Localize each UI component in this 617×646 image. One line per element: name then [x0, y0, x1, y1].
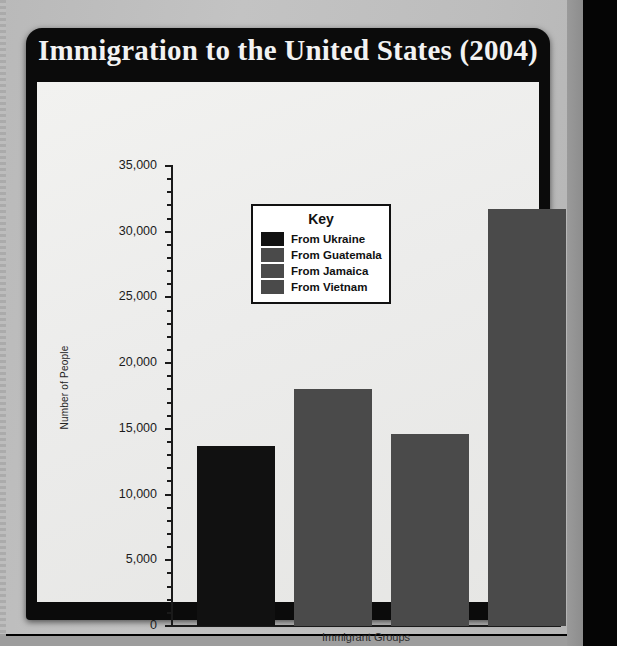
- y-axis-tick-label-text: 10,000: [119, 487, 157, 501]
- right-gray-strip: [567, 0, 583, 646]
- y-axis-tick-label-text: 15,000: [119, 421, 157, 435]
- chart-card: Immigration to the United States (2004) …: [26, 28, 550, 620]
- y-axis-tick-major: [165, 625, 173, 627]
- legend-swatch: [261, 264, 284, 278]
- legend-swatch: [261, 248, 284, 262]
- legend-entries: From UkraineFrom GuatemalaFrom JamaicaFr…: [253, 231, 389, 295]
- y-axis-tick-label-text: 5,000: [126, 552, 157, 566]
- legend-entry: From Jamaica: [253, 263, 389, 279]
- legend-entry: From Ukraine: [253, 231, 389, 247]
- bar: [488, 209, 566, 626]
- bar: [294, 389, 372, 626]
- y-axis-tick-major: [165, 165, 173, 167]
- legend-swatch: [261, 280, 284, 294]
- y-axis-tick-major: [165, 494, 173, 496]
- y-axis-tick-major: [165, 559, 173, 561]
- legend-swatch: [261, 232, 284, 246]
- y-axis-tick-major: [165, 362, 173, 364]
- left-scan-edge: [0, 0, 6, 646]
- y-axis-tick-label-text: 0: [150, 618, 157, 632]
- y-axis-tick-label-text: 35,000: [119, 158, 157, 172]
- chart-legend: Key From UkraineFrom GuatemalaFrom Jamai…: [251, 204, 391, 304]
- legend-title: Key: [253, 211, 389, 227]
- legend-label: From Vietnam: [291, 281, 367, 293]
- bar: [391, 434, 469, 626]
- y-axis-tick-label-text: 30,000: [119, 224, 157, 238]
- legend-entry: From Vietnam: [253, 279, 389, 295]
- y-axis-label: Number of People: [59, 328, 70, 448]
- legend-label: From Guatemala: [291, 249, 382, 261]
- page-title: Immigration to the United States (2004): [26, 34, 550, 67]
- y-axis-tick-label-text: 20,000: [119, 355, 157, 369]
- y-axis-tick-major: [165, 428, 173, 430]
- legend-entry: From Guatemala: [253, 247, 389, 263]
- y-axis-tick-major: [165, 296, 173, 298]
- x-axis-label: Immigrant Groups: [171, 631, 561, 643]
- chart-plate: 35,00030,00025,00020,00015,00010,0005,00…: [37, 82, 539, 602]
- y-axis-tick-label-text: 25,000: [119, 289, 157, 303]
- y-axis-tick-major: [165, 231, 173, 233]
- legend-label: From Jamaica: [291, 265, 368, 277]
- bar-chart: 35,00030,00025,00020,00015,00010,0005,00…: [37, 82, 539, 602]
- screenshot-root: Immigration to the United States (2004) …: [0, 0, 617, 646]
- bar: [197, 446, 275, 626]
- right-black-strip: [583, 0, 617, 646]
- legend-label: From Ukraine: [291, 233, 365, 245]
